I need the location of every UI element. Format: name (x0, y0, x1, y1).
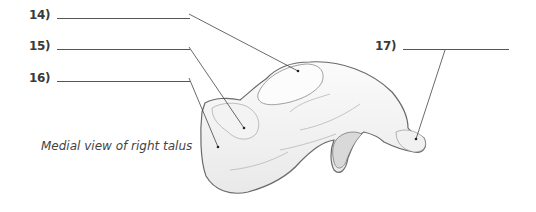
pointer-dot-17 (415, 138, 418, 141)
talus-illustration (0, 0, 536, 212)
pointer-dot-14 (297, 70, 300, 73)
pointer-dot-16 (217, 146, 220, 149)
pointer-dot-15 (243, 127, 246, 130)
leader-line-17 (416, 50, 445, 139)
leader-line-14 (189, 14, 298, 71)
